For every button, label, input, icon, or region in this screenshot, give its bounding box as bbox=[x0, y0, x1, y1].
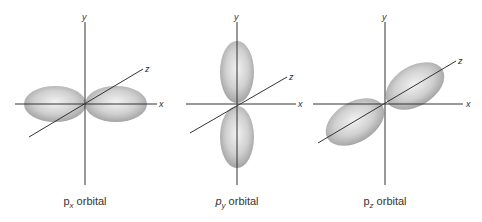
px-y-label: y bbox=[81, 12, 87, 22]
panel-px-orbital: y x z bbox=[15, 12, 164, 185]
panel-pz-orbital: y x z bbox=[313, 12, 471, 185]
caption-py-orbital: py orbital bbox=[215, 195, 258, 210]
pz-x-label: x bbox=[465, 99, 471, 109]
caption-pz-orbital: pz orbital bbox=[363, 195, 406, 210]
caption-px-rest: orbital bbox=[74, 195, 107, 207]
panel-py-orbital: y x z bbox=[186, 12, 303, 185]
pz-z-label: z bbox=[457, 56, 463, 66]
p-orbitals-diagram: y x z y x z y x z bbox=[0, 0, 482, 222]
px-x-label: x bbox=[158, 99, 164, 109]
pz-lobe-negative bbox=[317, 88, 392, 155]
caption-px-orbital: px orbital bbox=[63, 195, 106, 210]
pz-z-axis bbox=[318, 61, 456, 143]
pz-y-label: y bbox=[381, 12, 387, 22]
caption-pz-rest: orbital bbox=[374, 195, 407, 207]
caption-py-rest: orbital bbox=[226, 195, 259, 207]
py-y-label: y bbox=[233, 12, 239, 22]
py-z-label: z bbox=[288, 72, 294, 82]
py-x-label: x bbox=[297, 99, 303, 109]
px-z-label: z bbox=[144, 64, 150, 74]
pz-lobe-positive bbox=[377, 52, 452, 119]
